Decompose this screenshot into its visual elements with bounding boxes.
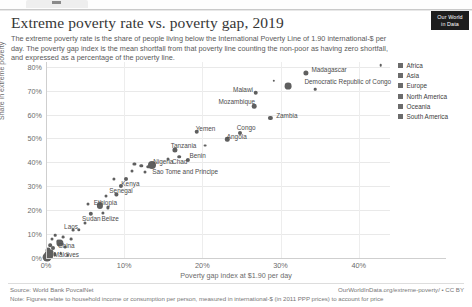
y-axis-tick-label: 30% <box>2 182 42 191</box>
footer-divider <box>8 283 464 284</box>
scatter-point-label: Tanzania <box>171 142 197 149</box>
scatter-point[interactable] <box>268 116 272 120</box>
scatter-point-label: Belize <box>101 214 118 221</box>
scatter-point[interactable] <box>84 222 87 225</box>
legend-item-label: North America <box>407 93 448 100</box>
scatter-point[interactable] <box>285 82 292 89</box>
legend-item-label: South America <box>407 113 449 120</box>
legend-swatch-icon <box>398 63 403 68</box>
owid-logo-line2: in Data <box>431 21 469 28</box>
scatter-point[interactable] <box>54 234 57 237</box>
scatter-point[interactable] <box>379 64 382 67</box>
scatter-point-label: Malawi <box>233 86 253 93</box>
chart-page: Extreme poverty rate vs. poverty gap, 20… <box>0 0 472 307</box>
y-axis-tick-label: 70% <box>2 87 42 96</box>
owid-url-link[interactable]: OurWorldInData.org/extreme-poverty/ • CC… <box>338 286 464 293</box>
gridline-horizontal <box>46 162 390 163</box>
y-axis-tick-label: 80% <box>2 63 42 72</box>
gridline-horizontal <box>46 210 390 211</box>
scatter-point-label: Madagascar <box>311 66 346 73</box>
scatter-point-label: Senegal <box>109 187 132 194</box>
scatter-point[interactable] <box>314 88 317 91</box>
scatter-point[interactable] <box>70 237 73 240</box>
x-axis-tick-label: 20% <box>182 261 222 270</box>
scatter-point[interactable] <box>51 238 54 241</box>
x-axis-tick-label: 0% <box>26 261 66 270</box>
gridline-vertical <box>359 62 360 258</box>
legend-item-label: Oceania <box>407 103 431 110</box>
scatter-point[interactable] <box>140 164 143 167</box>
legend-swatch-icon <box>398 104 403 109</box>
scatter-point-label: Angola <box>227 133 247 140</box>
x-axis-line <box>46 258 446 259</box>
scatter-point-label: Congo <box>237 124 256 131</box>
legend-item[interactable]: Africa <box>398 62 468 69</box>
legend-item[interactable]: Europe <box>398 82 468 89</box>
scatter-point[interactable] <box>105 194 108 197</box>
owid-logo[interactable]: Our World in Data <box>431 11 469 30</box>
gridline-horizontal <box>46 234 390 235</box>
scatter-point-label: Zambia <box>276 111 297 118</box>
y-axis-tick-label: 20% <box>2 206 42 215</box>
y-axis-tick-label: 50% <box>2 134 42 143</box>
legend-item[interactable]: Asia <box>398 72 468 79</box>
scatter-point-label: Democratic Republic of Congo <box>304 77 391 84</box>
scatter-point[interactable] <box>272 79 274 81</box>
chart-legend[interactable]: AfricaAsiaEuropeNorth AmericaOceaniaSout… <box>398 62 468 123</box>
legend-swatch-icon <box>398 94 403 99</box>
legend-item[interactable]: North America <box>398 93 468 100</box>
gridline-vertical <box>202 62 203 258</box>
scatter-point-label: Ethiopia <box>94 198 117 205</box>
scatter-point[interactable] <box>204 144 207 147</box>
legend-item-label: Asia <box>407 72 419 79</box>
chrome-divider-shadow <box>0 10 472 11</box>
owid-logo-line1: Our World <box>431 14 469 21</box>
chart-subtitle: The extreme poverty rate is the share of… <box>11 34 389 63</box>
legend-swatch-icon <box>398 83 403 88</box>
scatter-point[interactable] <box>112 177 115 180</box>
gridline-horizontal <box>46 138 390 139</box>
gridline-horizontal <box>46 186 390 187</box>
browser-chrome <box>0 0 472 9</box>
y-axis-tick-label: 40% <box>2 158 42 167</box>
source-text: Source: World Bank PovcalNet <box>10 286 94 293</box>
scatter-point-label: Sudan <box>82 214 100 221</box>
x-axis-tick-label: 40% <box>339 261 379 270</box>
x-axis-tick-label: 30% <box>261 261 301 270</box>
y-axis-label: Share in extreme poverty <box>0 42 5 120</box>
chart-header: Extreme poverty rate vs. poverty gap, 20… <box>11 13 411 63</box>
scatter-point-label: Sao Tome and Principe <box>152 167 218 174</box>
x-axis-tick-label: 10% <box>104 261 144 270</box>
legend-item[interactable]: South America <box>398 113 468 120</box>
scatter-point-label: Benin <box>189 152 205 159</box>
scatter-point[interactable] <box>106 206 109 209</box>
chart-title: Extreme poverty rate vs. poverty gap, 20… <box>11 13 411 32</box>
scatter-point-label: Yemen <box>196 124 216 131</box>
gridline-horizontal <box>46 115 390 116</box>
gridline-vertical <box>124 62 125 258</box>
scatter-point[interactable] <box>87 202 90 205</box>
scatter-point-label: Laos <box>64 222 78 229</box>
scatter-point-label: Kenya <box>121 179 139 186</box>
scatter-point[interactable] <box>62 236 65 239</box>
scatter-point-label: Chad <box>172 158 187 165</box>
tab-favicon-icon <box>52 1 61 4</box>
legend-item-label: Africa <box>407 62 423 69</box>
legend-swatch-icon <box>398 114 403 119</box>
legend-item[interactable]: Oceania <box>398 103 468 110</box>
scatter-point[interactable] <box>253 90 258 95</box>
scatter-point[interactable] <box>133 162 136 165</box>
legend-item-label: Europe <box>407 82 428 89</box>
scatter-point[interactable] <box>143 170 146 173</box>
scatter-point[interactable] <box>303 70 308 75</box>
scatter-point-label: China <box>58 241 75 248</box>
note-text: Note: Figures relate to household income… <box>10 295 430 302</box>
scatter-plot-area[interactable]: MadagascarDemocratic Republic of CongoMa… <box>46 62 390 258</box>
legend-swatch-icon <box>398 73 403 78</box>
y-axis-tick-label: 10% <box>2 230 42 239</box>
scatter-point[interactable] <box>131 169 134 172</box>
scatter-point-label: Maldives <box>54 251 79 258</box>
y-axis-line <box>46 62 47 258</box>
y-axis-tick-label: 0% <box>2 254 42 263</box>
scatter-point-label: Nigeria <box>153 157 173 164</box>
